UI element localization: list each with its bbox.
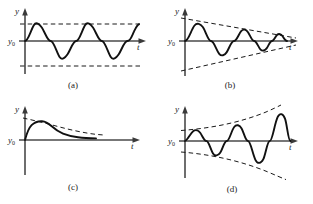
svg-text:y0: y0 [7,135,15,146]
panel-a-x-axis-label: t [137,42,140,52]
panel-a-caption: (a) [68,80,78,90]
panel-b-caption: (b) [225,80,236,90]
panel-a-y-axis-arrow [22,8,28,16]
panel-d-x-axis-arrow [291,138,299,144]
panel-d-baseline-label: y0 [167,136,175,147]
panel-b: y y0 t (b) [167,6,298,90]
panel-c-upper-envelope [23,118,104,135]
panel-a: y y0 t (a) [7,6,146,90]
panel-a-x-axis-arrow [139,38,147,44]
panel-d-x-axis-label: t [289,142,292,152]
panel-b-x-axis-label: t [289,42,292,52]
svg-text:y0: y0 [167,36,175,47]
panel-d-lower-envelope [181,152,286,180]
svg-text:y0: y0 [167,136,175,147]
panel-c: y y0 t (c) [7,104,140,192]
panel-c-x-axis-arrow [133,137,141,143]
panel-a-baseline-label: y0 [7,36,15,47]
panel-b-y-axis-label: y [174,6,179,16]
panel-d-caption: (d) [227,184,238,194]
panel-c-baseline-label: y0 [7,135,15,146]
panel-d-upper-envelope [181,105,281,131]
panel-b-baseline-label: y0 [167,36,175,47]
panel-c-y-axis-label: y [14,104,19,114]
panel-b-lower-envelope [181,45,296,71]
panel-c-displacement-curve [25,121,96,140]
panel-c-y-axis-arrow [22,106,28,114]
panel-d: y y0 t (d) [167,104,298,194]
panel-c-axes [19,106,140,175]
panel-d-y-axis-arrow [182,106,188,114]
panel-c-x-axis-label: t [131,141,134,151]
panel-c-caption: (c) [68,182,78,192]
panel-d-axes [179,106,298,178]
panel-a-y-axis-label: y [14,6,19,16]
panel-b-x-axis-arrow [291,38,299,44]
panel-d-y-axis-label: y [174,104,179,114]
damping-regimes-figure: y y0 t (a) y y0 t (b) [0,0,313,204]
svg-text:y0: y0 [7,36,15,47]
panel-b-y-axis-arrow [182,8,188,16]
panel-b-axes [179,8,298,76]
